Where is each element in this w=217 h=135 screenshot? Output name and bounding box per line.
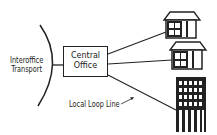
office-building-icon bbox=[176, 77, 206, 132]
local-loop-line-label: Local Loop Line bbox=[69, 100, 120, 109]
central-office-line2: Office bbox=[64, 61, 107, 71]
line-to-house-1 bbox=[108, 32, 166, 54]
interoffice-label-line1: Interoffice bbox=[10, 56, 43, 65]
central-office-label: Central Office bbox=[64, 51, 107, 71]
house-icon bbox=[164, 12, 200, 38]
interoffice-label-line2: Transport bbox=[10, 65, 43, 74]
interoffice-transport-label: Interoffice Transport bbox=[10, 56, 43, 74]
line-to-house-2 bbox=[108, 60, 172, 64]
central-office-line1: Central bbox=[64, 51, 107, 61]
network-diagram: Interoffice Transport Central Office Loc… bbox=[0, 0, 217, 135]
house-icon bbox=[170, 42, 206, 69]
central-office-box: Central Office bbox=[63, 46, 108, 77]
